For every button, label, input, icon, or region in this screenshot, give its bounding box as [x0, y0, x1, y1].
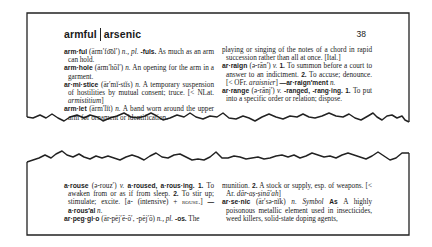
- guide-words: armfularsenic: [64, 28, 141, 41]
- bottom-right-column: munition. 2. A stock or supply, esp. of …: [222, 182, 372, 223]
- sense-number: 2.: [301, 71, 307, 78]
- pronunciation: (ə-rānj′): [252, 87, 275, 95]
- page-number: 38: [357, 29, 366, 39]
- bottom-tear-edge: [27, 151, 409, 162]
- pronunciation: (ärm′fo͝ol′): [89, 48, 120, 56]
- entry-arsenic: ar·se·nic (är′sə-nĭk) n. Symbol As A hig…: [222, 198, 372, 223]
- inflections: -ranged, -rang·ing.: [284, 87, 343, 94]
- derived-form: —ar·raign′ment: [280, 79, 328, 86]
- plural-label: pl.: [166, 215, 173, 223]
- pronunciation: (är′mĭ-stĭs): [101, 81, 133, 89]
- part-of-speech: n.,: [122, 48, 129, 56]
- part-of-speech: v.: [120, 182, 124, 190]
- headword: ar·peg·gi·o: [64, 215, 100, 222]
- headword: ar·raign: [222, 62, 247, 69]
- sense-number: 1.: [345, 87, 351, 94]
- symbol-label: Symbol: [302, 198, 323, 206]
- part-of-speech: v.: [273, 62, 277, 70]
- entry-armlet: arm·let (ärm′lĭt) n. A band worn around …: [64, 105, 214, 121]
- inflections: a·roused, a·rous·ing.: [128, 182, 195, 189]
- etymology-bracket: .]: [198, 198, 202, 206]
- part-of-speech: n.: [115, 105, 120, 113]
- plural-form: -os.: [175, 215, 187, 222]
- headword: a·rouse: [64, 182, 89, 189]
- sense-number: 2.: [173, 190, 179, 197]
- entry-armful: arm·ful (ärm′fo͝ol′) n., pl. -fuls. As m…: [64, 48, 214, 64]
- etymology: dār-aṣ-ṣinā'ah: [237, 190, 279, 198]
- etymology-bracket: ]: [275, 79, 277, 87]
- continuation-text: munition.: [222, 182, 250, 190]
- part-of-speech: n.: [291, 198, 296, 206]
- guide-word-last: arsenic: [104, 28, 141, 40]
- top-left-column: arm·ful (ärm′fo͝ol′) n., pl. -fuls. As m…: [64, 48, 214, 122]
- part-of-speech: v.: [277, 87, 281, 95]
- part-of-speech: n.,: [157, 215, 164, 223]
- entry-armistice: ar·mi·stice (är′mĭ-stĭs) n. A temporary …: [64, 81, 214, 106]
- pronunciation: (ärm′hōl′): [95, 64, 123, 72]
- headword: ar·range: [222, 87, 249, 94]
- entry-arraign: ar·raign (ə-rān′) v. 1. To summon before…: [222, 62, 372, 87]
- headword: arm·let: [64, 105, 87, 112]
- derived-pos: n.: [97, 207, 102, 215]
- sense-number: 1.: [198, 182, 204, 189]
- page-header: armfularsenic 38: [64, 28, 374, 42]
- pronunciation: (ärm′lĭt): [89, 105, 113, 113]
- guide-word-first: armful: [64, 28, 97, 40]
- pronunciation: (är′sə-nĭk): [256, 198, 286, 206]
- etymology: araisnier: [249, 79, 275, 87]
- headword: ar·se·nic: [222, 198, 250, 205]
- etymology-bracket: ]: [101, 97, 103, 105]
- pronunciation: (ə-rouz′): [92, 182, 117, 190]
- definition: The: [188, 215, 199, 223]
- pronunciation: (är-pĕj′ē-ō′, -pĕj′ō): [101, 215, 155, 223]
- part-of-speech: n.: [125, 64, 130, 72]
- continuation-text: playing or singing of the notes of a cho…: [222, 46, 372, 62]
- guide-word-separator: [100, 28, 101, 41]
- etymology-bracket: ]: [279, 190, 281, 198]
- pronunciation: (ə-rān′): [250, 62, 271, 70]
- etymology-cross-ref: rouse: [182, 198, 198, 206]
- chemical-symbol: As: [329, 198, 337, 205]
- plural-label: pl.: [131, 48, 138, 56]
- part-of-speech: n.: [135, 81, 140, 89]
- headword: arm·ful: [64, 48, 87, 55]
- sense-number: 2.: [252, 182, 258, 189]
- etymology: armistitium: [68, 97, 101, 105]
- headword: ar·mi·stice: [64, 81, 98, 88]
- entry-arouse: a·rouse (ə-rouz′) v. a·roused, a·rous·in…: [64, 182, 214, 215]
- derived-pos: n.: [330, 79, 335, 87]
- headword: arm·hole: [64, 64, 93, 71]
- continued-definition: playing or singing of the notes of a cho…: [222, 46, 372, 62]
- plural-form: -fuls.: [141, 48, 157, 55]
- sense-number: 1.: [279, 62, 285, 69]
- continued-definition: munition. 2. A stock or supply, esp. of …: [222, 182, 372, 198]
- entry-arpeggio: ar·peg·gi·o (är-pĕj′ē-ō′, -pĕj′ō) n., pl…: [64, 215, 214, 223]
- entry-arrange: ar·range (ə-rānj′) v. -ranged, -rang·ing…: [222, 87, 372, 103]
- top-right-column: playing or singing of the notes of a cho…: [222, 46, 372, 103]
- entry-armhole: arm·hole (ärm′hōl′) n. An opening for th…: [64, 64, 214, 80]
- bottom-left-column: a·rouse (ə-rouz′) v. a·roused, a·rous·in…: [64, 182, 214, 223]
